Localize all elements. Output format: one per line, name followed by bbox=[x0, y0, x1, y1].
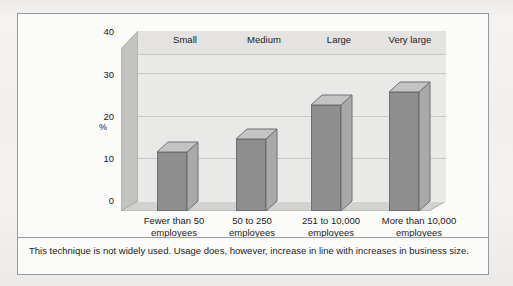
bar-50-to-250 bbox=[236, 31, 266, 211]
y-tick-20: 20 bbox=[90, 111, 114, 122]
figure-caption-text: This technique is not widely used. Usage… bbox=[18, 238, 488, 257]
x-label-line1: 251 to 10,000 bbox=[286, 215, 376, 227]
y-tick-40: 40 bbox=[90, 26, 114, 37]
x-label-251-to-10000: 251 to 10,000 employees bbox=[286, 215, 376, 238]
x-label-fewer-than-50: Fewer than 50 employees bbox=[130, 215, 218, 238]
bar-fewer-than-50 bbox=[157, 31, 187, 211]
x-label-line1: 50 to 250 bbox=[210, 215, 294, 227]
x-label-line1: More than 10,000 bbox=[370, 215, 468, 227]
bar-251-to-10000 bbox=[311, 31, 341, 211]
x-label-line1: Fewer than 50 bbox=[130, 215, 218, 227]
bar-3d-faces bbox=[236, 31, 282, 211]
plot-area: Small Medium Large Very large bbox=[121, 31, 446, 211]
y-tick-30: 30 bbox=[90, 69, 114, 80]
bar-3d-faces bbox=[157, 31, 203, 211]
x-label-more-than-10000: More than 10,000 employees bbox=[370, 215, 468, 238]
y-tick-10: 10 bbox=[90, 153, 114, 164]
bar-more-than-10000 bbox=[389, 31, 419, 211]
y-axis-title: % bbox=[99, 122, 107, 132]
bar-3d-faces bbox=[389, 31, 435, 211]
x-label-50-to-250: 50 to 250 employees bbox=[210, 215, 294, 238]
bar-chart: % 40 30 20 10 0 Small Medium Larg bbox=[18, 14, 488, 237]
y-tick-0: 0 bbox=[90, 195, 114, 206]
figure-panel: % 40 30 20 10 0 Small Medium Larg bbox=[17, 13, 489, 275]
bar-3d-faces bbox=[311, 31, 357, 211]
figure-caption: This technique is not widely used. Usage… bbox=[18, 237, 488, 275]
